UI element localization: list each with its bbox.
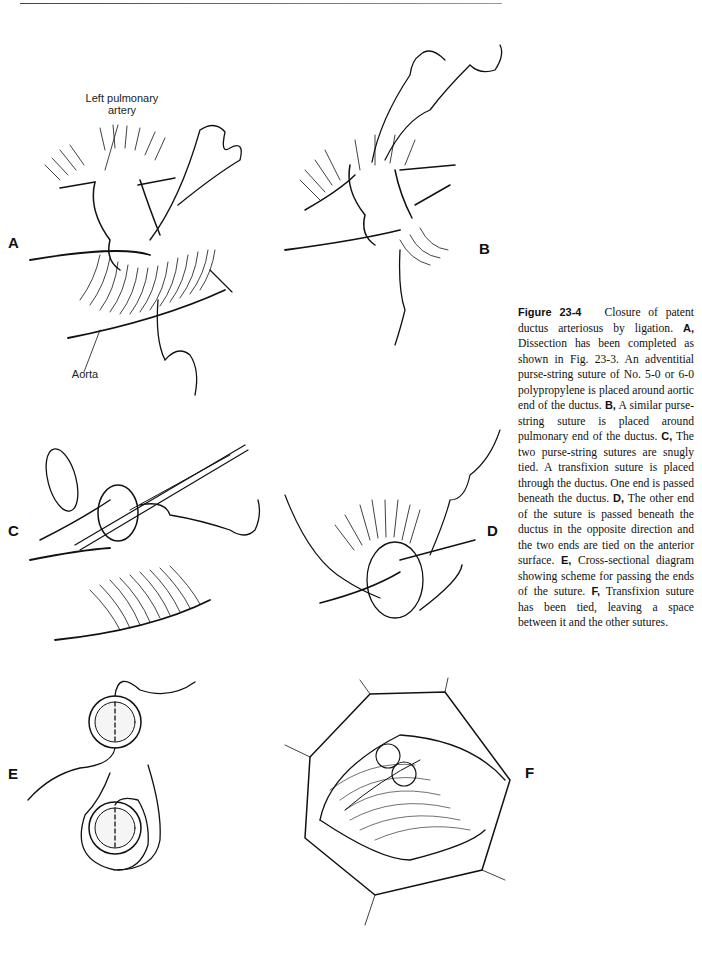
panel-e-drawing [28, 681, 195, 870]
panel-b-drawing [285, 45, 502, 345]
panel-label-c: C [8, 522, 19, 539]
caption-label-d: D, [613, 492, 624, 504]
caption-label-e: E, [561, 554, 571, 566]
caption-label-f: F, [591, 585, 600, 597]
panel-label-d: D [487, 522, 498, 539]
caption-label-c: C, [661, 430, 672, 442]
panel-label-f: F [525, 764, 534, 781]
panel-a-drawing [30, 125, 241, 395]
figure-caption: Figure 23-4 Closure of patent ductus art… [518, 305, 694, 631]
panel-f-drawing [285, 678, 510, 925]
panel-c-drawing [30, 445, 259, 640]
panel-d-drawing [285, 430, 500, 618]
figure-number: Figure 23-4 [518, 306, 581, 318]
panel-label-e: E [8, 765, 18, 782]
caption-label-b: B, [605, 399, 616, 411]
panel-label-b: B [479, 240, 490, 257]
caption-label-a: A, [683, 322, 694, 334]
